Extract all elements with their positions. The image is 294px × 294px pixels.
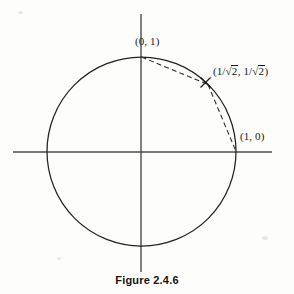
paper-speck <box>262 236 268 240</box>
sqrt-radicand-second: 2 <box>258 65 265 77</box>
label-point-diagonal: (1/√2, 1/√2) <box>213 65 268 77</box>
paper-speck <box>18 11 23 14</box>
paper-speck <box>57 257 61 260</box>
label-point-top: (0, 1) <box>135 36 159 47</box>
sqrt-radicand-first: 2 <box>231 65 238 77</box>
chord-top-to-diagonal <box>142 57 209 85</box>
label-diagonal-open: (1/ <box>213 65 226 77</box>
figure-caption: Figure 2.4.6 <box>0 274 294 286</box>
label-diagonal-close: ) <box>265 65 269 77</box>
label-point-right: (1, 0) <box>240 131 264 142</box>
figure-container: (0, 1) (1/√2, 1/√2) (1, 0) Figure 2.4.6 <box>0 0 294 294</box>
sqrt-symbol-second: √2 <box>252 65 264 77</box>
chord-diagonal-to-right <box>208 85 236 152</box>
axes-group <box>13 14 272 272</box>
label-diagonal-middle: , 1/ <box>238 65 252 77</box>
sqrt-symbol-first: √2 <box>226 65 238 77</box>
